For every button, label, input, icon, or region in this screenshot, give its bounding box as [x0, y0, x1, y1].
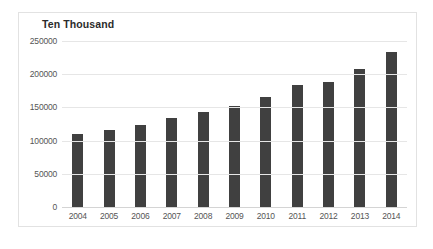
x-axis-tick-label-2004: 2004 [62, 211, 93, 221]
bar-2007[interactable] [166, 118, 177, 208]
x-axis-tick-label-2009: 2009 [219, 211, 250, 221]
chart-title: Ten Thousand [42, 18, 114, 30]
y-axis-tick-label: 50000 [34, 169, 57, 179]
bar-slot-2006 [125, 42, 156, 208]
gridline-250000: 250000 [62, 41, 407, 42]
bar-slot-2014 [376, 42, 407, 208]
bar-slot-2013 [344, 42, 375, 208]
y-axis-tick-label: 0 [52, 202, 57, 212]
gridline-50000: 50000 [62, 174, 407, 175]
x-axis-tick-label-2013: 2013 [344, 211, 375, 221]
bar-series [62, 42, 407, 208]
bar-slot-2008 [187, 42, 218, 208]
bar-2010[interactable] [260, 97, 271, 208]
bar-slot-2012 [313, 42, 344, 208]
gridline-200000: 200000 [62, 74, 407, 75]
bar-2014[interactable] [386, 52, 397, 208]
x-axis-tick-label-2012: 2012 [313, 211, 344, 221]
x-axis-tick-label-2014: 2014 [376, 211, 407, 221]
x-axis-tick-label-2006: 2006 [125, 211, 156, 221]
y-axis-tick-label: 200000 [30, 69, 57, 79]
y-axis-tick-label: 150000 [30, 102, 57, 112]
bar-slot-2007 [156, 42, 187, 208]
bar-slot-2005 [93, 42, 124, 208]
bar-slot-2009 [219, 42, 250, 208]
gridline-150000: 150000 [62, 107, 407, 108]
plot-area: 050000100000150000200000250000 [62, 42, 407, 208]
y-axis-tick-label: 250000 [30, 36, 57, 46]
bar-2004[interactable] [72, 134, 83, 208]
bar-2008[interactable] [198, 112, 209, 208]
bar-2009[interactable] [229, 106, 240, 208]
bar-slot-2011 [282, 42, 313, 208]
x-axis-tick-label-2005: 2005 [93, 211, 124, 221]
bar-2006[interactable] [135, 125, 146, 208]
bar-2013[interactable] [354, 69, 365, 208]
y-axis-tick-label: 100000 [30, 136, 57, 146]
x-axis-tick-label-2008: 2008 [187, 211, 218, 221]
bar-2011[interactable] [292, 85, 303, 209]
chart-container: Ten Thousand 050000100000150000200000250… [18, 12, 417, 227]
gridline-0: 0 [62, 207, 407, 208]
bar-2012[interactable] [323, 82, 334, 208]
gridline-100000: 100000 [62, 141, 407, 142]
bar-slot-2004 [62, 42, 93, 208]
x-axis-tick-label-2010: 2010 [250, 211, 281, 221]
bar-2005[interactable] [104, 130, 115, 208]
x-axis-tick-label-2011: 2011 [282, 211, 313, 221]
x-axis-labels: 2004200520062007200820092010201120122013… [62, 211, 407, 221]
x-axis-tick-label-2007: 2007 [156, 211, 187, 221]
bar-slot-2010 [250, 42, 281, 208]
